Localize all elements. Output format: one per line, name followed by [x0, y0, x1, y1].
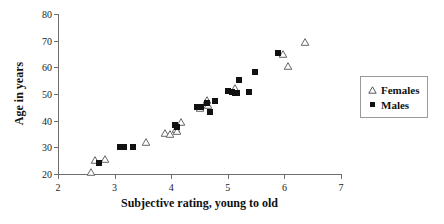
data-point-male: [174, 124, 180, 130]
data-point-male: [236, 77, 242, 83]
y-tick-label: 80: [42, 9, 52, 20]
y-tick-label: 40: [42, 115, 52, 126]
data-point-male: [252, 69, 258, 75]
data-point-female: [284, 62, 293, 70]
x-tick-label: 3: [112, 182, 117, 193]
data-point-male: [246, 89, 252, 95]
x-tick-label: 6: [282, 182, 287, 193]
y-tick-mark: [54, 147, 58, 148]
x-tick-mark: [284, 175, 285, 179]
y-tick-mark: [54, 67, 58, 68]
y-tick-label: 20: [42, 169, 52, 180]
plot-area: 20304050607080 234567: [58, 14, 341, 174]
x-tick-label: 2: [56, 182, 61, 193]
data-point-male: [212, 98, 218, 104]
legend-item-males: Males: [366, 97, 419, 112]
y-tick-mark: [54, 14, 58, 15]
x-axis-line: [58, 174, 342, 175]
chart-legend: Females Males: [360, 76, 428, 118]
y-tick-label: 50: [42, 89, 52, 100]
data-point-female: [86, 168, 95, 176]
x-tick-label: 4: [169, 182, 174, 193]
x-tick-label: 5: [225, 182, 230, 193]
y-tick-label: 70: [42, 35, 52, 46]
y-tick-label: 60: [42, 62, 52, 73]
legend-item-females: Females: [366, 82, 419, 97]
filled-square-icon: [366, 102, 378, 107]
y-axis-line: [58, 14, 59, 175]
data-point-male: [130, 144, 136, 150]
data-point-male: [234, 90, 240, 96]
open-triangle-icon: [366, 86, 378, 94]
data-point-male: [96, 160, 102, 166]
x-tick-mark: [115, 175, 116, 179]
legend-label-females: Females: [381, 84, 419, 96]
data-point-male: [121, 144, 127, 150]
data-point-female: [141, 138, 150, 146]
y-tick-mark: [54, 41, 58, 42]
x-tick-mark: [58, 175, 59, 179]
data-point-female: [301, 38, 310, 46]
y-tick-mark: [54, 121, 58, 122]
scatter-chart-figure: 20304050607080 234567 Subjective rating,…: [0, 0, 444, 224]
data-point-male: [204, 100, 210, 106]
x-tick-mark: [171, 175, 172, 179]
x-tick-mark: [341, 175, 342, 179]
x-tick-label: 7: [339, 182, 344, 193]
data-point-male: [207, 109, 213, 115]
x-tick-mark: [228, 175, 229, 179]
x-axis-title: Subjective rating, young to old: [58, 196, 341, 211]
data-point-male: [275, 50, 281, 56]
y-tick-label: 30: [42, 142, 52, 153]
data-point-male: [198, 104, 204, 110]
y-tick-mark: [54, 94, 58, 95]
y-axis-title: Age in years: [12, 34, 27, 154]
legend-label-males: Males: [381, 99, 409, 111]
